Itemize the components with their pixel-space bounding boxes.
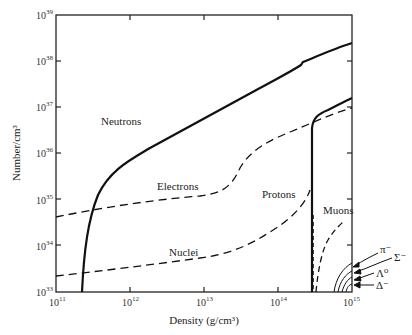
label-electrons: Electrons [157, 180, 199, 192]
svg-text:1036: 1036 [36, 146, 54, 159]
label-sigma-minus: Σ⁻ [394, 251, 406, 263]
label-neutrons: Neutrons [101, 115, 141, 127]
svg-text:1035: 1035 [36, 193, 54, 206]
label-protons: Protons [262, 188, 296, 200]
svg-text:1015: 1015 [343, 295, 361, 308]
x-ticks [130, 15, 278, 292]
svg-text:1034: 1034 [36, 239, 54, 252]
y-axis-label: Number/cm³ [10, 124, 22, 181]
svg-text:1013: 1013 [196, 295, 214, 308]
series-hyperons [334, 263, 352, 292]
svg-text:1038: 1038 [36, 54, 54, 67]
plot-frame [56, 15, 352, 292]
series-protons [312, 98, 352, 292]
x-axis-label: Density (g/cm³) [169, 314, 239, 327]
svg-text:1011: 1011 [49, 295, 66, 308]
y-tick-labels: 1033 1034 1035 1036 1037 1038 1039 [36, 8, 54, 298]
y-ticks [56, 61, 352, 245]
label-muons: Muons [323, 204, 354, 216]
chart: 1033 1034 1035 1036 1037 1038 1039 1011 … [0, 0, 412, 335]
series-muons [316, 220, 345, 292]
label-lambda-zero: Λ⁰ [376, 267, 389, 279]
label-pi-minus: π⁻ [380, 243, 392, 255]
label-nuclei: Nuclei [169, 246, 198, 258]
svg-text:1012: 1012 [122, 295, 140, 308]
x-tick-labels: 1011 1012 1013 1014 1015 [49, 295, 361, 308]
svg-text:1037: 1037 [36, 100, 54, 113]
label-delta-minus: Δ⁻ [376, 279, 389, 291]
svg-text:1014: 1014 [270, 295, 288, 308]
svg-text:1039: 1039 [36, 8, 54, 21]
